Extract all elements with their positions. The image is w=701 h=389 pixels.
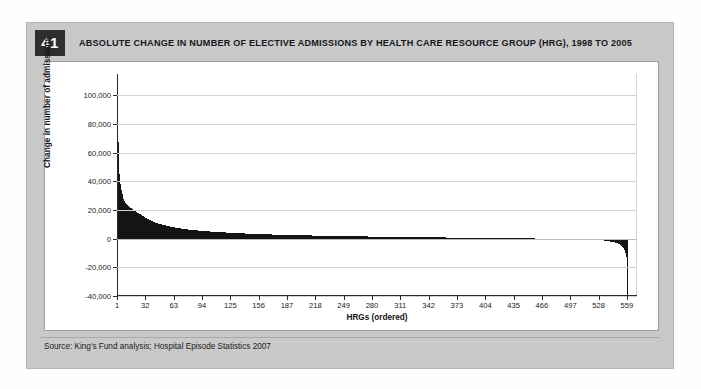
x-tick-label: 404 — [479, 301, 492, 310]
x-tick-label: 435 — [507, 301, 520, 310]
x-tick-label: 342 — [422, 301, 435, 310]
x-tick-mark — [599, 296, 600, 300]
x-tick-label: 156 — [252, 301, 265, 310]
x-tick-label: 63 — [169, 301, 177, 310]
source-separator — [40, 337, 660, 338]
gridline-y — [117, 296, 637, 297]
y-tick-mark — [113, 239, 117, 240]
y-tick-mark — [113, 124, 117, 125]
gridline-y — [117, 267, 637, 268]
chart-plot-panel: Change in number of admissions HRGs (ord… — [44, 61, 659, 331]
x-tick-mark — [145, 296, 146, 300]
x-tick-mark — [174, 296, 175, 300]
x-tick-mark — [514, 296, 515, 300]
y-tick-label: -20,000 — [85, 263, 111, 272]
y-tick-label: -40,000 — [85, 292, 111, 301]
x-tick-mark — [485, 296, 486, 300]
x-axis-title: HRGs (ordered) — [117, 313, 637, 322]
chart-bars-layer — [117, 74, 637, 296]
y-tick-label: 0 — [107, 234, 111, 243]
y-tick-label: 20,000 — [88, 206, 111, 215]
y-tick-mark — [113, 181, 117, 182]
gridline-y — [117, 95, 637, 96]
x-tick-label: 94 — [198, 301, 206, 310]
y-tick-label: 60,000 — [88, 148, 111, 157]
x-tick-mark — [287, 296, 288, 300]
gridline-y — [117, 124, 637, 125]
y-tick-mark — [113, 153, 117, 154]
figure-source: Source: King's Fund analysis; Hospital E… — [44, 342, 271, 351]
x-tick-label: 497 — [564, 301, 577, 310]
gridline-y — [117, 210, 637, 211]
figure-card: 41 ABSOLUTE CHANGE IN NUMBER OF ELECTIVE… — [26, 22, 674, 369]
y-axis-title-text: Change in number of admissions — [42, 37, 52, 168]
x-tick-mark — [542, 296, 543, 300]
y-tick-label: 40,000 — [88, 177, 111, 186]
chart-axes: HRGs (ordered) 100,00080,00060,00040,000… — [117, 74, 637, 296]
x-tick-mark — [400, 296, 401, 300]
x-tick-label: 466 — [536, 301, 549, 310]
x-tick-label: 218 — [309, 301, 322, 310]
y-tick-label: 80,000 — [88, 120, 111, 129]
y-axis-line — [117, 74, 118, 296]
x-tick-label: 373 — [451, 301, 464, 310]
y-tick-mark — [113, 95, 117, 96]
gridline-y — [117, 181, 637, 182]
figure-card-inner: 41 ABSOLUTE CHANGE IN NUMBER OF ELECTIVE… — [30, 26, 670, 365]
x-tick-mark — [570, 296, 571, 300]
y-axis-title: Change in number of admissions — [42, 0, 52, 112]
y-tick-mark — [113, 210, 117, 211]
x-tick-mark — [259, 296, 260, 300]
figure-header: 41 ABSOLUTE CHANGE IN NUMBER OF ELECTIVE… — [30, 26, 670, 59]
x-tick-label: 528 — [592, 301, 605, 310]
x-tick-label: 249 — [337, 301, 350, 310]
x-tick-label: 311 — [394, 301, 406, 310]
page-root: 41 ABSOLUTE CHANGE IN NUMBER OF ELECTIVE… — [0, 0, 701, 389]
x-tick-label: 32 — [141, 301, 149, 310]
x-tick-label: 280 — [366, 301, 379, 310]
x-tick-label: 187 — [281, 301, 294, 310]
x-tick-mark — [202, 296, 203, 300]
x-tick-label: 559 — [621, 301, 634, 310]
x-tick-mark — [429, 296, 430, 300]
gridline-y — [117, 153, 637, 154]
y-tick-label: 100,000 — [84, 91, 111, 100]
gridline-y — [117, 239, 637, 240]
x-tick-mark — [117, 296, 118, 300]
x-tick-label: 1 — [115, 301, 119, 310]
x-tick-mark — [457, 296, 458, 300]
plot-right-edge — [636, 74, 637, 296]
x-tick-mark — [230, 296, 231, 300]
x-tick-mark — [344, 296, 345, 300]
x-tick-mark — [372, 296, 373, 300]
figure-title: ABSOLUTE CHANGE IN NUMBER OF ELECTIVE AD… — [79, 38, 632, 48]
x-tick-mark — [627, 296, 628, 300]
x-tick-mark — [315, 296, 316, 300]
x-tick-label: 125 — [224, 301, 237, 310]
y-tick-mark — [113, 267, 117, 268]
